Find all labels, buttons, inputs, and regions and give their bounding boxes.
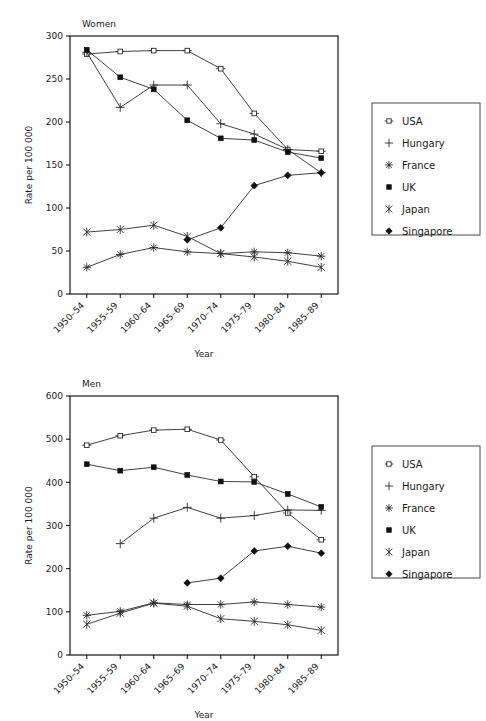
data-point-marker: [116, 250, 124, 258]
x-tick-label: 1960–64: [119, 661, 154, 696]
women-chart-svg: Women0501001502002503001950–541955–59196…: [0, 0, 486, 360]
legend-marker-france: [385, 504, 393, 512]
data-point-marker: [150, 243, 158, 251]
data-point-marker: [250, 474, 259, 479]
legend-label-uk: UK: [402, 182, 416, 193]
y-tick-label: 0: [57, 289, 63, 299]
series-usa: [82, 48, 326, 153]
chart-legend: USAHungaryFranceUKJapanSingapore: [372, 103, 480, 237]
series-france: [83, 598, 326, 620]
y-tick-label: 400: [46, 478, 63, 488]
data-point-marker: [250, 111, 259, 116]
x-tick-label: 1950–54: [52, 661, 87, 696]
series-hungary: [82, 48, 325, 177]
x-tick-label: 1985–89: [286, 661, 321, 696]
data-point-marker: [185, 473, 190, 478]
data-point-marker: [285, 492, 290, 497]
men-chart-svg: Men01002003004005006001950–541955–591960…: [0, 358, 486, 721]
data-point-marker: [319, 156, 324, 161]
legend-label-usa: USA: [402, 116, 423, 127]
data-point-marker: [151, 465, 156, 470]
data-point-marker: [284, 543, 291, 550]
x-tick-label: 1980–84: [253, 300, 288, 335]
x-tick-label: 1980–84: [253, 661, 288, 696]
data-point-marker: [183, 503, 192, 512]
data-point-marker: [84, 47, 89, 52]
legend-label-usa: USA: [402, 459, 423, 470]
women-chart-panel: Women0501001502002503001950–541955–59196…: [0, 0, 486, 360]
series-usa: [82, 427, 326, 542]
legend-label-uk: UK: [402, 525, 416, 536]
x-tick-label: 1975–79: [219, 300, 254, 335]
data-point-marker: [250, 598, 258, 606]
y-tick-label: 50: [52, 246, 64, 256]
series-uk: [84, 462, 323, 510]
data-point-marker: [317, 252, 325, 260]
series-japan: [83, 221, 325, 272]
panel-title: Men: [82, 379, 101, 389]
series-singapore: [184, 169, 325, 243]
data-point-marker: [317, 537, 326, 542]
data-point-marker: [149, 48, 158, 53]
data-point-marker: [317, 603, 325, 611]
data-point-marker: [151, 87, 156, 92]
x-tick-label: 1955–59: [85, 661, 120, 696]
y-tick-label: 200: [46, 564, 63, 574]
legend-label-singapore: Singapore: [402, 569, 452, 580]
legend-label-hungary: Hungary: [402, 138, 445, 149]
legend-label-japan: Japan: [401, 204, 430, 215]
panel-title: Women: [82, 19, 116, 29]
series-line: [87, 429, 322, 540]
data-point-marker: [116, 103, 125, 112]
series-line: [87, 51, 322, 152]
data-point-marker: [149, 514, 158, 523]
data-point-marker: [116, 49, 125, 54]
data-point-marker: [117, 609, 124, 618]
legend-label-japan: Japan: [401, 547, 430, 558]
legend-marker-france: [385, 161, 393, 169]
y-tick-label: 200: [46, 117, 63, 127]
chart-legend: USAHungaryFranceUKJapanSingapore: [372, 446, 480, 580]
y-tick-label: 100: [46, 203, 63, 213]
men-chart-panel: Men01002003004005006001950–541955–591960…: [0, 358, 486, 718]
data-point-marker: [118, 468, 123, 473]
plot-frame: [70, 36, 338, 294]
y-tick-label: 300: [46, 31, 63, 41]
x-tick-label: 1970–74: [186, 300, 221, 335]
data-point-marker: [83, 263, 91, 271]
legend-marker-uk: [387, 185, 392, 190]
x-tick-label: 1960–64: [119, 300, 154, 335]
data-point-marker: [218, 479, 223, 484]
data-point-marker: [318, 169, 325, 176]
data-point-marker: [284, 249, 292, 257]
legend-marker-uk: [387, 528, 392, 533]
x-tick-label: 1985–89: [286, 300, 321, 335]
data-point-marker: [183, 248, 191, 256]
y-tick-label: 500: [46, 434, 63, 444]
data-point-marker: [116, 433, 125, 438]
y-tick-label: 150: [46, 160, 63, 170]
data-point-marker: [149, 428, 158, 433]
y-tick-label: 100: [46, 607, 63, 617]
data-point-marker: [317, 149, 326, 154]
y-tick-label: 600: [46, 391, 63, 401]
data-point-marker: [216, 438, 225, 443]
x-tick-label: 1965–69: [152, 300, 187, 335]
x-tick-label: 1950–54: [52, 300, 87, 335]
data-point-marker: [318, 550, 325, 557]
data-point-marker: [285, 150, 290, 155]
data-point-marker: [319, 505, 324, 510]
x-tick-label: 1975–79: [219, 661, 254, 696]
x-axis-title: Year: [193, 710, 213, 720]
data-point-marker: [218, 136, 223, 141]
legend-label-singapore: Singapore: [402, 226, 452, 237]
data-point-marker: [217, 600, 225, 608]
data-point-marker: [116, 539, 125, 548]
data-point-marker: [184, 580, 191, 587]
data-point-marker: [284, 600, 292, 608]
data-point-marker: [83, 611, 91, 619]
data-point-marker: [252, 480, 257, 485]
series-hungary: [116, 503, 326, 548]
data-point-marker: [250, 511, 259, 520]
series-france: [83, 243, 326, 271]
